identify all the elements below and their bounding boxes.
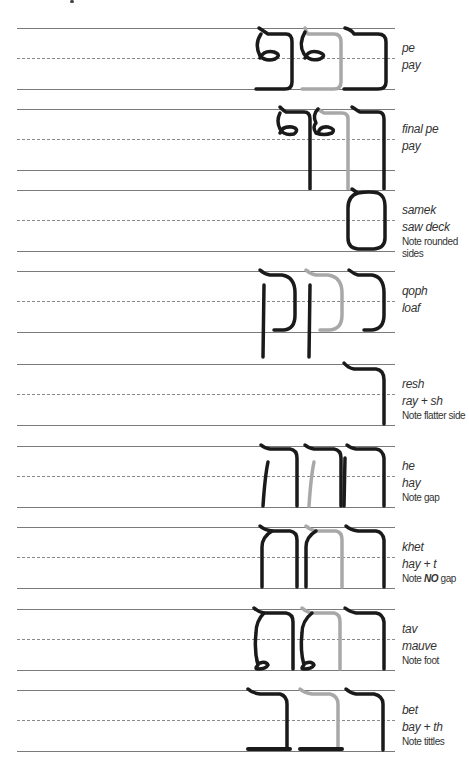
qoph-labels: qoph loaf [402,283,468,317]
letter-name: khet [402,539,468,556]
he-letter-strokes [0,446,469,526]
note-suffix: gap [438,573,456,584]
practice-row-samek: samek saw deck Note rounded sides [0,190,469,252]
practice-row-he: he hay Note gap [0,446,469,508]
letter-name: he [402,458,468,475]
writing-note: Note flatter side [402,410,468,422]
practice-row-tav: tav mauve Note foot [0,609,469,671]
tav-letter-strokes [0,609,469,689]
letter-sound: bay + th [402,719,468,736]
writing-note: Note NO gap [402,573,468,585]
final-pe-letter-strokes [0,109,469,189]
bet-labels: bet bay + th Note tittles [402,702,468,748]
khet-labels: khet hay + t Note NO gap [402,539,468,585]
samek-letter-strokes [0,190,469,270]
letter-sound: mauve [402,638,468,655]
page-edge-mark [70,0,74,3]
letter-sound: pay [402,57,468,74]
letter-name: qoph [402,283,468,300]
letter-sound: loaf [402,300,468,317]
writing-note: Note foot [402,655,468,667]
tav-labels: tav mauve Note foot [402,621,468,667]
resh-labels: resh ray + sh Note flatter side [402,376,468,422]
letter-sound: pay [402,138,468,155]
practice-row-khet: khet hay + t Note NO gap [0,527,469,589]
khet-letter-strokes [0,527,469,607]
he-labels: he hay Note gap [402,458,468,504]
writing-note: Note rounded sides [402,236,468,260]
bet-letter-strokes [0,690,469,770]
practice-row-bet: bet bay + th Note tittles [0,690,469,752]
letter-name: pe [402,40,468,57]
pe-letter-strokes [0,28,469,108]
samek-labels: samek saw deck Note rounded sides [402,202,468,260]
letter-name: tav [402,621,468,638]
note-prefix: Note [402,573,424,584]
final-pe-labels: final pe pay [402,121,468,155]
practice-row-pe: pe pay [0,28,469,90]
letter-name: final pe [402,121,468,138]
letter-sound: hay [402,475,468,492]
writing-note: Note gap [402,492,468,504]
note-emphasis: NO [424,573,438,584]
letter-name: samek [402,202,468,219]
resh-letter-strokes [0,364,469,444]
letter-name: bet [402,702,468,719]
qoph-letter-strokes [0,271,469,351]
pe-labels: pe pay [402,40,468,74]
practice-row-qoph: qoph loaf [0,271,469,333]
letter-sound: ray + sh [402,393,468,410]
letter-sound: hay + t [402,556,468,573]
practice-row-resh: resh ray + sh Note flatter side [0,364,469,426]
practice-row-final-pe: final pe pay [0,109,469,171]
letter-name: resh [402,376,468,393]
letter-sound: saw deck [402,219,468,236]
writing-note: Note tittles [402,736,468,748]
